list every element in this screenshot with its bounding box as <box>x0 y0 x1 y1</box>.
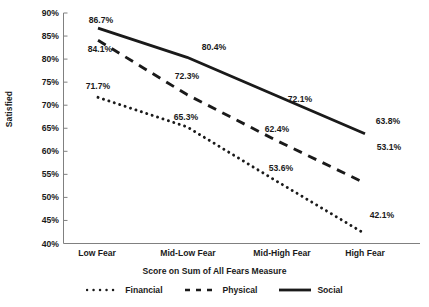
series-line-social <box>98 28 365 134</box>
legend-label-physical: Physical <box>223 285 258 295</box>
legend-label-social: Social <box>317 285 342 295</box>
legend-item-social[interactable]: Social <box>278 285 342 295</box>
legend-swatch-dashed-line-icon <box>184 285 218 295</box>
data-label-financial: 65.3% <box>174 112 198 122</box>
data-label-social: 63.8% <box>376 116 400 126</box>
data-label-physical: 72.3% <box>175 71 199 81</box>
legend-label-financial: Financial <box>125 285 162 295</box>
chart-container: Satisfied 90%85%80%75%70%65%60%55%50%45%… <box>0 0 429 307</box>
data-label-physical: 62.4% <box>265 124 289 134</box>
data-label-social: 80.4% <box>202 42 226 52</box>
data-label-financial: 42.1% <box>370 210 394 220</box>
data-label-financial: 71.7% <box>86 81 110 91</box>
y-axis-tick-marks <box>64 13 68 244</box>
legend-item-financial[interactable]: Financial <box>86 285 162 295</box>
legend-item-physical[interactable]: Physical <box>184 285 258 295</box>
x-axis-title: Score on Sum of All Fears Measure <box>0 266 429 276</box>
data-label-social: 72.1% <box>288 94 312 104</box>
data-label-financial: 53.6% <box>269 163 293 173</box>
series-lines <box>98 28 365 234</box>
data-label-physical: 53.1% <box>377 142 401 152</box>
legend-swatch-dotted-line-icon <box>86 285 120 295</box>
chart-legend: Financial Physical Social <box>0 285 429 295</box>
data-label-physical: 84.1% <box>88 44 112 54</box>
legend-swatch-solid-line-icon <box>278 285 312 295</box>
data-label-social: 86.7% <box>89 15 113 25</box>
series-line-physical <box>98 40 365 183</box>
